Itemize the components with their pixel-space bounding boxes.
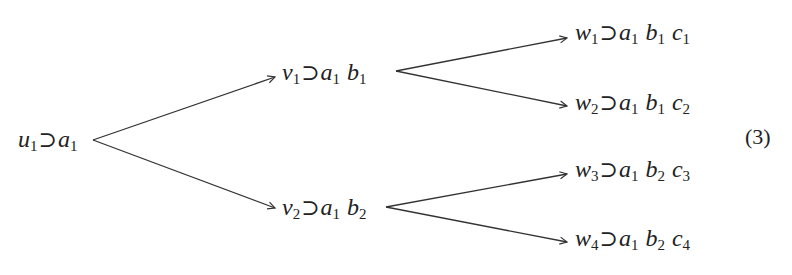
superset-operator: ⊃ (301, 60, 319, 85)
var: a (619, 156, 631, 182)
superset-operator: ⊃ (600, 90, 618, 115)
subscript: 2 (657, 168, 665, 184)
superset-operator: ⊃ (301, 195, 319, 220)
var: b (645, 225, 657, 251)
superset-operator: ⊃ (39, 127, 57, 152)
subscript: 2 (591, 101, 599, 117)
var: w (575, 156, 591, 182)
superset-operator: ⊃ (600, 157, 618, 182)
subscript: 1 (591, 31, 599, 47)
var: w (575, 225, 591, 251)
node-w3: w3⊃a1b2c3 (575, 157, 690, 181)
subscript: 1 (657, 31, 665, 47)
subscript: 1 (657, 101, 665, 117)
edge-u1-v2 (93, 140, 275, 208)
var: v (282, 59, 293, 85)
subscript: 1 (631, 101, 639, 117)
node-w4: w4⊃a1b2c4 (575, 226, 690, 250)
subscript: 1 (333, 206, 341, 222)
subscript: 4 (683, 237, 691, 253)
subscript: 4 (591, 237, 599, 253)
var: w (575, 89, 591, 115)
node-v1: v1⊃a1b1 (282, 60, 367, 84)
var: a (619, 19, 631, 45)
var: a (619, 89, 631, 115)
var: b (347, 59, 359, 85)
subscript: 1 (293, 71, 301, 87)
subscript: 1 (631, 31, 639, 47)
var: c (672, 89, 683, 115)
subscript: 1 (359, 71, 367, 87)
node-w1: w1⊃a1b1c1 (575, 20, 690, 44)
node-w2: w2⊃a1b1c2 (575, 90, 690, 114)
var: a (321, 59, 333, 85)
var: v (282, 194, 293, 220)
subscript: 2 (657, 237, 665, 253)
node-v2: v2⊃a1b2 (282, 195, 367, 219)
subscript: 1 (333, 71, 341, 87)
var: b (645, 89, 657, 115)
superset-operator: ⊃ (600, 226, 618, 251)
var: a (321, 194, 333, 220)
subscript: 2 (683, 101, 691, 117)
equation-number: (3) (745, 124, 771, 150)
node-u1: u1⊃a1 (18, 127, 77, 151)
var: a (58, 126, 70, 152)
var: b (347, 194, 359, 220)
var: a (619, 225, 631, 251)
edge-u1-v1 (93, 77, 275, 140)
var: w (575, 19, 591, 45)
var: b (645, 19, 657, 45)
subscript: 1 (683, 31, 691, 47)
var: c (672, 225, 683, 251)
var: c (672, 156, 683, 182)
subscript: 2 (359, 206, 367, 222)
subscript: 3 (591, 168, 599, 184)
var: b (645, 156, 657, 182)
subscript: 1 (70, 138, 78, 154)
edge-v1-w1 (396, 38, 567, 71)
subscript: 3 (683, 168, 691, 184)
edge-v2-w4 (386, 207, 567, 242)
subscript: 2 (293, 206, 301, 222)
edge-v2-w3 (386, 174, 567, 207)
subscript: 1 (30, 138, 38, 154)
superset-operator: ⊃ (600, 20, 618, 45)
var: c (672, 19, 683, 45)
edge-v1-w2 (396, 71, 567, 106)
var: u (18, 126, 30, 152)
subscript: 1 (631, 237, 639, 253)
subscript: 1 (631, 168, 639, 184)
